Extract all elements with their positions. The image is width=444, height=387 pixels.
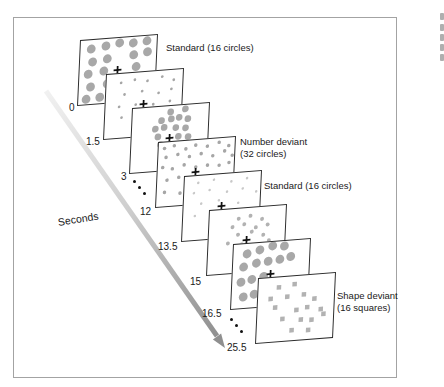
circle-stimulus-dot [168, 115, 175, 122]
circle-stimulus-dot [194, 143, 198, 147]
ellipsis-dot [143, 192, 146, 195]
circle-stimulus-dot [254, 225, 258, 229]
circle-stimulus-dot [247, 275, 256, 285]
condition-label-line: Number deviant [240, 136, 307, 148]
circle-stimulus-dot [280, 241, 289, 251]
stimulus-panel-stack [0, 0, 444, 387]
circle-stimulus-dot [268, 241, 277, 251]
circle-stimulus-dot [264, 256, 273, 266]
circle-stimulus-dot [188, 155, 192, 159]
circle-stimulus-dot [255, 245, 264, 255]
square-stimulus-dot [280, 317, 285, 322]
circle-stimulus-dot [184, 115, 191, 122]
circle-stimulus-dot [87, 44, 96, 54]
circle-stimulus-dot [176, 114, 183, 121]
circle-stimulus-dot [223, 149, 227, 153]
square-stimulus-dot [273, 305, 278, 310]
circle-stimulus-dot [103, 54, 112, 64]
condition-label-standard-faint: Standard (16 circles) [264, 180, 352, 192]
circle-stimulus-dot [146, 79, 149, 82]
time-tick-standard-medium: 3 [121, 171, 127, 182]
square-stimulus-dot [268, 296, 273, 301]
circle-stimulus-dot [206, 163, 210, 167]
circle-stimulus-dot [237, 201, 240, 204]
circle-stimulus-dot [261, 233, 265, 237]
circle-stimulus-dot [218, 199, 221, 202]
time-tick-standard-cluster: 15 [190, 276, 201, 287]
circle-stimulus-dot [168, 99, 171, 102]
circle-stimulus-dot [236, 277, 245, 287]
figure-canvas: Seconds Standard (16 circles)01.53Number… [0, 0, 444, 387]
circle-stimulus-dot [217, 140, 221, 144]
circle-stimulus-dot [172, 78, 175, 81]
circle-stimulus-dot [164, 155, 168, 159]
ellipsis-dot [230, 318, 233, 321]
circle-stimulus-dot [239, 262, 248, 272]
circle-stimulus-dot [236, 233, 240, 237]
square-stimulus-dot [294, 307, 299, 312]
circle-stimulus-dot [226, 241, 230, 245]
circle-stimulus-dot [172, 124, 179, 131]
circle-stimulus-dot [275, 254, 284, 264]
circle-stimulus-dot [182, 163, 186, 167]
circle-stimulus-dot [260, 217, 264, 221]
circle-stimulus-dot [200, 202, 203, 205]
circle-stimulus-dot [227, 144, 231, 148]
circle-stimulus-dot [226, 190, 229, 193]
circle-stimulus-dot [157, 91, 160, 94]
circle-stimulus-dot [120, 116, 123, 119]
circle-stimulus-dot [230, 180, 233, 183]
circle-stimulus-dot [178, 191, 182, 195]
circle-stimulus-dot [95, 92, 104, 102]
circle-stimulus-dot [211, 154, 215, 158]
square-stimulus-dot [321, 311, 326, 316]
time-tick-standard-faint: 13.5 [158, 241, 177, 252]
square-stimulus-dot [305, 305, 310, 310]
time-tick-standard-large: 0 [69, 102, 75, 113]
square-stimulus-dot [285, 294, 290, 299]
square-stimulus-dot [309, 317, 314, 322]
circle-stimulus-dot [88, 57, 97, 67]
circle-stimulus-dot [143, 47, 152, 57]
circle-stimulus-dot [248, 214, 252, 218]
ellipsis-dot [235, 324, 238, 327]
circle-stimulus-dot [177, 175, 181, 179]
circle-stimulus-dot [230, 153, 234, 157]
circle-stimulus-dot [163, 147, 167, 151]
circle-stimulus-dot [171, 167, 175, 171]
condition-label-line: (32 circles) [240, 148, 307, 160]
circle-stimulus-dot [132, 62, 141, 72]
condition-label-standard-large: Standard (16 circles) [166, 42, 254, 54]
circle-stimulus-dot [255, 190, 258, 193]
circle-stimulus-dot [242, 222, 246, 226]
time-tick-number-deviant: 12 [140, 206, 151, 217]
condition-label-line: Standard (16 circles) [166, 42, 254, 54]
circle-stimulus-dot [120, 81, 123, 84]
circle-stimulus-dot [213, 178, 216, 181]
circle-stimulus-dot [252, 258, 261, 268]
circle-stimulus-dot [239, 292, 248, 302]
circle-stimulus-dot [184, 147, 188, 151]
square-stimulus-dot [298, 317, 303, 322]
square-stimulus-dot [292, 282, 297, 287]
ellipsis-dot [240, 330, 243, 333]
circle-stimulus-dot [199, 152, 203, 156]
circle-stimulus-dot [286, 252, 295, 262]
square-stimulus-dot [277, 285, 282, 290]
circle-stimulus-dot [134, 103, 137, 106]
circle-stimulus-dot [237, 217, 241, 221]
condition-label-line: Shape deviant [337, 290, 398, 302]
circle-stimulus-dot [250, 229, 254, 233]
condition-label-shape-deviant: Shape deviant(16 squares) [337, 290, 398, 314]
circle-stimulus-dot [165, 178, 169, 182]
stimulus-panel-shape-deviant [255, 272, 336, 344]
circle-stimulus-dot [158, 117, 165, 124]
circle-stimulus-dot [152, 125, 159, 132]
circle-stimulus-dot [176, 152, 180, 156]
circle-stimulus-dot [163, 190, 167, 194]
condition-label-line: (16 squares) [337, 302, 398, 314]
circle-stimulus-dot [230, 225, 234, 229]
circle-stimulus-dot [243, 249, 252, 259]
circle-stimulus-dot [133, 78, 136, 81]
square-stimulus-dot [289, 328, 294, 333]
